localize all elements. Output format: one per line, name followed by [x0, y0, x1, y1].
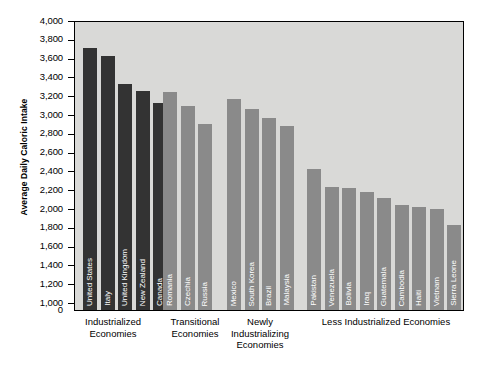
bar-label: New Zealand	[139, 259, 147, 306]
bar: Sierra Leone	[447, 22, 461, 310]
bar-label: Iraq	[363, 292, 371, 306]
y-axis-tick-label: 2,800	[40, 127, 63, 138]
y-axis-tick-label: 3,000	[40, 109, 63, 120]
bar: Pakistan	[307, 22, 321, 310]
bar-label: Pakistan	[310, 275, 318, 306]
bar-label: Haiti	[415, 290, 423, 306]
bar-rect	[101, 56, 115, 310]
bar-label: Sierra Leone	[450, 260, 458, 306]
bar: Cambodia	[395, 22, 409, 310]
y-axis-tick-label: 2,600	[40, 146, 63, 157]
y-axis-tick-label: 1,600	[40, 240, 63, 251]
bar: South Korea	[245, 22, 259, 310]
y-axis-tick-label: 3,600	[40, 52, 63, 63]
bar: New Zealand	[136, 22, 150, 310]
bar-label: Czechia	[184, 277, 192, 306]
bar-label: South Korea	[248, 262, 256, 306]
y-axis-tick-label: 3,400	[40, 71, 63, 82]
y-axis-tick-label: 1,800	[40, 221, 63, 232]
bar-label: Malaysia	[283, 274, 291, 306]
y-axis-tick-label: 3,800	[40, 33, 63, 44]
bar-rect	[227, 99, 241, 310]
y-axis-tick-label: 0	[58, 304, 63, 315]
bar: Malaysia	[280, 22, 294, 310]
bar: Russia	[198, 22, 212, 310]
bar: Czechia	[181, 22, 195, 310]
y-axis-tick-label: 3,200	[40, 90, 63, 101]
y-axis-tick-label: 2,000	[40, 203, 63, 214]
y-axis-tick-label: 1,400	[40, 259, 63, 270]
bar-label: Italy	[104, 291, 112, 306]
group-label: Less Industrialized Economies	[300, 316, 472, 328]
y-axis-tick-label: 4,000	[40, 15, 63, 26]
y-axis-tick-label: 1,200	[40, 278, 63, 289]
chart-figure: Average Daily Caloric Intake 4,0003,8003…	[0, 0, 480, 369]
group-label: Newly Industrializing Economies	[208, 316, 312, 351]
bar: Venezuela	[325, 22, 339, 310]
bar: Vietnam	[430, 22, 444, 310]
bar-label: Brazil	[265, 286, 273, 306]
bar: Guatemala	[377, 22, 391, 310]
bar-label: Vietnam	[433, 277, 441, 306]
bar-label: United States	[86, 258, 94, 306]
y-axis: 4,0003,8003,6003,4003,2003,0002,8002,600…	[0, 0, 74, 330]
bar-rect	[262, 118, 276, 310]
bar-label: Russia	[201, 282, 209, 306]
bar: Mexico	[227, 22, 241, 310]
y-axis-tick-label: 2,400	[40, 165, 63, 176]
bar: Iraq	[360, 22, 374, 310]
bar-label: Bolivia	[345, 282, 353, 306]
bar-label: Romania	[166, 274, 174, 306]
bar: Romania	[163, 22, 177, 310]
bar-label: United Kingdom	[121, 249, 129, 306]
bar: Haiti	[412, 22, 426, 310]
bar: Brazil	[262, 22, 276, 310]
plot-area: United StatesItalyUnited KingdomNew Zeal…	[74, 21, 464, 311]
bar-label: Cambodia	[398, 270, 406, 306]
y-axis-tick-label: 2,200	[40, 184, 63, 195]
bar: Italy	[101, 22, 115, 310]
bar-label: Mexico	[230, 281, 238, 306]
bar: United States	[83, 22, 97, 310]
bar: United Kingdom	[118, 22, 132, 310]
bar-label: Guatemala	[380, 267, 388, 306]
bar: Bolivia	[342, 22, 356, 310]
bar-label: Venezuela	[328, 269, 336, 306]
